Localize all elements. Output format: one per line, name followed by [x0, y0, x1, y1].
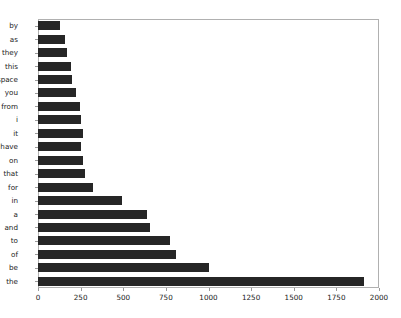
bar-in — [38, 196, 122, 205]
bar-fill — [38, 210, 147, 219]
x-tick-label: 750 — [159, 293, 173, 302]
y-tick-mark — [35, 26, 38, 27]
y-tick-label: space — [0, 75, 18, 84]
bar-as — [38, 35, 65, 44]
bar-this — [38, 62, 71, 71]
x-tick-mark — [379, 288, 380, 291]
y-tick-mark — [35, 174, 38, 175]
x-tick-mark — [294, 288, 295, 291]
bar-fill — [38, 62, 71, 71]
bar-fill — [38, 35, 65, 44]
bar-fill — [38, 115, 81, 124]
bar-fill — [38, 277, 364, 286]
y-tick-mark — [35, 160, 38, 161]
bar-for — [38, 183, 93, 192]
y-tick-mark — [35, 53, 38, 54]
bar-fill — [38, 223, 150, 232]
x-tick-mark — [123, 288, 124, 291]
bar-it — [38, 129, 83, 138]
bar-they — [38, 48, 67, 57]
bar-be — [38, 263, 209, 272]
bar-fill — [38, 129, 83, 138]
bar-fill — [38, 142, 81, 151]
x-tick-label: 250 — [74, 293, 88, 302]
y-tick-label: the — [6, 277, 18, 286]
bar-fill — [38, 263, 209, 272]
bar-fill — [38, 48, 67, 57]
y-tick-label: for — [8, 183, 18, 192]
bar-fill — [38, 196, 122, 205]
bar-i — [38, 115, 81, 124]
x-tick-mark — [166, 288, 167, 291]
bar-a — [38, 210, 147, 219]
y-tick-label: on — [9, 156, 18, 165]
bar-fill — [38, 250, 176, 259]
bar-by — [38, 21, 60, 30]
y-tick-label: this — [5, 62, 18, 71]
y-tick-mark — [35, 227, 38, 228]
y-tick-label: by — [9, 21, 18, 30]
bar-fill — [38, 169, 85, 178]
y-tick-label: have — [0, 142, 18, 151]
x-tick-label: 1250 — [242, 293, 260, 302]
y-tick-label: from — [1, 102, 18, 111]
x-tick-label: 2000 — [370, 293, 388, 302]
x-tick-label: 0 — [36, 293, 41, 302]
x-tick-label: 1000 — [199, 293, 217, 302]
x-tick-label: 1750 — [327, 293, 345, 302]
bar-the — [38, 277, 364, 286]
y-tick-mark — [35, 254, 38, 255]
y-tick-label: a — [14, 210, 18, 219]
bar-that — [38, 169, 85, 178]
bar-space — [38, 75, 72, 84]
y-tick-mark — [35, 93, 38, 94]
y-tick-mark — [35, 106, 38, 107]
y-tick-label: and — [4, 223, 18, 232]
bar-fill — [38, 183, 93, 192]
y-tick-mark — [35, 281, 38, 282]
x-tick-label: 1500 — [285, 293, 303, 302]
y-tick-mark — [35, 66, 38, 67]
bar-of — [38, 250, 176, 259]
bar-have — [38, 142, 81, 151]
x-tick-mark — [38, 288, 39, 291]
bar-fill — [38, 75, 72, 84]
y-tick-mark — [35, 187, 38, 188]
y-tick-mark — [35, 120, 38, 121]
bar-fill — [38, 156, 83, 165]
y-tick-mark — [35, 241, 38, 242]
y-tick-label: of — [11, 250, 18, 259]
x-tick-label: 500 — [116, 293, 130, 302]
y-tick-label: it — [13, 129, 18, 138]
bar-to — [38, 236, 170, 245]
bar-fill — [38, 21, 60, 30]
y-tick-mark — [35, 214, 38, 215]
bar-fill — [38, 236, 170, 245]
x-tick-mark — [251, 288, 252, 291]
x-tick-mark — [209, 288, 210, 291]
y-tick-label: be — [9, 263, 18, 272]
y-tick-mark — [35, 147, 38, 148]
bar-chart: byastheythisspaceyoufromiithaveonthatfor… — [0, 0, 401, 318]
x-tick-mark — [336, 288, 337, 291]
y-tick-label: in — [11, 196, 18, 205]
y-tick-label: i — [16, 115, 18, 124]
y-tick-mark — [35, 133, 38, 134]
y-tick-mark — [35, 268, 38, 269]
x-tick-mark — [81, 288, 82, 291]
y-tick-label: as — [10, 35, 18, 44]
bar-from — [38, 102, 80, 111]
y-tick-mark — [35, 80, 38, 81]
bar-and — [38, 223, 150, 232]
bar-fill — [38, 88, 76, 97]
y-tick-label: to — [11, 236, 18, 245]
bar-fill — [38, 102, 80, 111]
y-tick-mark — [35, 201, 38, 202]
y-tick-label: they — [2, 48, 18, 57]
plot-area — [38, 19, 379, 288]
y-tick-label: that — [3, 169, 18, 178]
y-tick-label: you — [5, 88, 18, 97]
y-tick-mark — [35, 39, 38, 40]
bar-you — [38, 88, 76, 97]
bar-on — [38, 156, 83, 165]
